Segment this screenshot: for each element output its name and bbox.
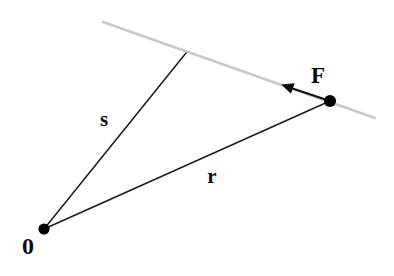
vector-r-label: r (207, 166, 216, 187)
mass-point (324, 95, 336, 107)
vector-r-line (44, 101, 330, 229)
origin-label: 0 (22, 234, 34, 258)
force-arrow-shaft (288, 87, 330, 101)
vector-s-label: s (100, 109, 108, 130)
vector-s-line (44, 53, 186, 229)
force-arrowhead-icon (281, 83, 294, 94)
origin-point (38, 223, 49, 234)
force-label: F (311, 64, 325, 87)
diagram-canvas (0, 0, 394, 276)
vector-diagram: s r F 0 (0, 0, 394, 276)
